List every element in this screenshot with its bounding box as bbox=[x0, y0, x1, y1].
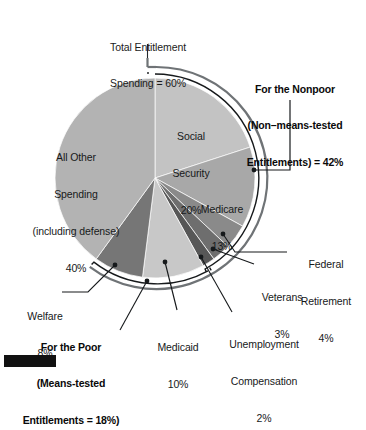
slice-label-all-other-line2: Spending bbox=[15, 188, 137, 200]
slice-label-medicaid-value: 10% bbox=[148, 378, 208, 390]
slice-label-all-other-line1: All Other bbox=[15, 151, 137, 163]
slice-label-unemployment-line1: Unemployment bbox=[218, 338, 310, 350]
slice-label-social-security-name1: Social bbox=[155, 130, 227, 142]
slice-label-medicaid: Medicaid 10% bbox=[148, 316, 208, 415]
slice-label-unemployment-value: 2% bbox=[218, 412, 310, 424]
slice-label-welfare-name: Welfare bbox=[16, 310, 74, 322]
poor-leader-dot bbox=[145, 279, 150, 284]
slice-label-all-other-spending: All Other Spending (including defense) 4… bbox=[15, 126, 137, 300]
slice-label-medicare-value: 13% bbox=[185, 240, 259, 252]
slice-label-medicare: Medicare 13% bbox=[185, 178, 259, 277]
slice-label-medicare-name: Medicare bbox=[185, 203, 259, 215]
footer-black-bar bbox=[4, 355, 56, 367]
annotation-nonpoor-line1: For the Nonpoor bbox=[226, 83, 364, 95]
annotation-total-entitlement-line1: Total Entitlement bbox=[86, 41, 210, 53]
slice-label-all-other-value: 40% bbox=[15, 262, 137, 274]
slice-label-medicaid-name: Medicaid bbox=[148, 341, 208, 353]
annotation-nonpoor-line2: (Non–means-tested bbox=[226, 119, 364, 131]
slice-label-veterans-name: Veterans bbox=[252, 291, 312, 303]
slice-label-unemployment-line2: Compensation bbox=[218, 375, 310, 387]
medicaid-leader-dot bbox=[163, 260, 168, 265]
slice-label-unemployment-compensation: Unemployment Compensation 2% bbox=[218, 313, 310, 430]
annotation-poor-line3: Entitlements = 18%) bbox=[0, 414, 142, 426]
slice-label-welfare: Welfare 8% bbox=[16, 285, 74, 384]
annotation-total-entitlement-line2: Spending = 60% bbox=[86, 77, 210, 89]
annotation-nonpoor-group: For the Nonpoor (Non–means-tested Entitl… bbox=[226, 58, 364, 193]
annotation-nonpoor-line3: Entitlements) = 42% bbox=[226, 156, 364, 168]
slice-label-all-other-line3: (including defense) bbox=[15, 225, 137, 237]
annotation-total-entitlement: Total Entitlement Spending = 60% bbox=[86, 16, 210, 114]
